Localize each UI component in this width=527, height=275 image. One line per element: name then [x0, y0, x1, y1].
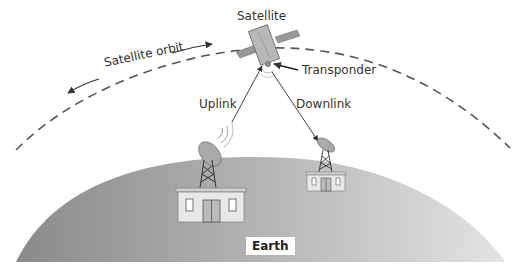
earth-label: Earth	[246, 237, 295, 255]
uplink-arrow	[232, 66, 262, 122]
signal-waves-icon	[218, 122, 233, 147]
satellite-icon	[236, 25, 300, 67]
satellite-diagram	[0, 0, 527, 275]
satellite-label: Satellite	[237, 10, 286, 22]
transponder-icon	[259, 70, 277, 78]
transponder-label: Transponder	[302, 64, 376, 76]
uplink-label: Uplink	[199, 98, 237, 110]
transponder-pointer	[274, 64, 298, 70]
downlink-label: Downlink	[296, 98, 351, 110]
